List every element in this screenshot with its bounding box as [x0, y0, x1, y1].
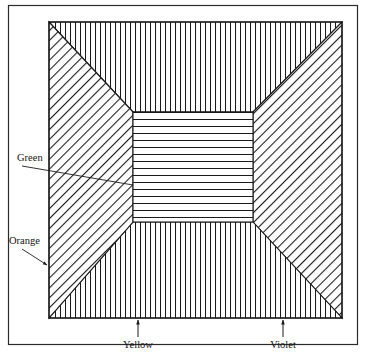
- figure-root: Green Orange Yellow Violet: [0, 0, 367, 352]
- center-square-region: [133, 112, 253, 222]
- label-violet: Violet: [270, 339, 296, 350]
- label-yellow: Yellow: [123, 339, 153, 350]
- label-orange: Orange: [9, 235, 40, 246]
- label-green: Green: [17, 152, 43, 163]
- hatched-regions-group: [49, 22, 342, 318]
- hatching-diagram-svg: Green Orange Yellow Violet: [0, 0, 367, 352]
